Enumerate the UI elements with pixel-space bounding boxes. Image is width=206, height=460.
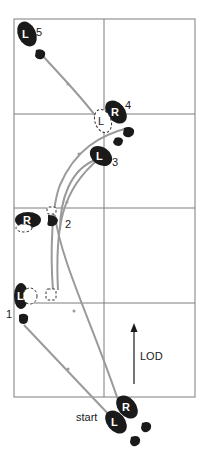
foot-label: L (22, 28, 29, 40)
line-of-dance-indicator: LOD (131, 323, 163, 384)
foot-label: L (111, 416, 118, 428)
floor-grid (14, 19, 195, 397)
dance-step-diagram: L 5 R L 4 L 3 R 2 L 1 LOD (0, 0, 206, 460)
foot-label: R (122, 401, 130, 413)
step-number-5: 5 (36, 26, 42, 38)
foot-label: L (98, 115, 104, 127)
step-number-1: 1 (6, 308, 12, 320)
lod-label: LOD (140, 350, 163, 362)
foot-label: R (23, 214, 31, 226)
foot-label: L (17, 290, 24, 302)
step-number-3: 3 (112, 156, 118, 168)
step-number-4: 4 (125, 99, 131, 111)
foot-label: L (96, 150, 103, 162)
start-label: start (76, 411, 97, 423)
step-number-2: 2 (65, 218, 71, 230)
foot-label: R (111, 106, 119, 118)
footprint-step-5-left: L (13, 18, 45, 59)
